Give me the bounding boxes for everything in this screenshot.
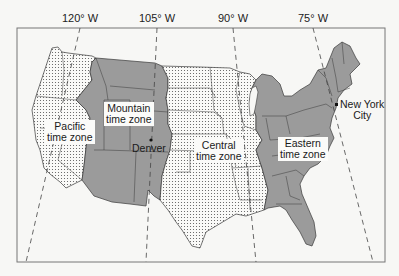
new-york-city-label: New York City: [340, 99, 384, 121]
eastern-label-line2: time zone: [280, 149, 326, 160]
eastern-zone-label: Eastern time zone: [278, 137, 328, 161]
central-zone-label: Central time zone: [194, 139, 244, 163]
pacific-label-line2: time zone: [47, 132, 93, 143]
meridian-label-75w: 75° W: [298, 12, 328, 24]
pacific-zone-label: Pacific time zone: [45, 120, 95, 144]
time-zone-map: 120° W 105° W 90° W 75° W Pacific time z…: [0, 0, 399, 276]
new-york-marker-icon: [335, 103, 338, 106]
mountain-zone-label: Mountain time zone: [104, 102, 154, 126]
nyc-label-line2: City: [340, 110, 384, 121]
central-label-line2: time zone: [196, 151, 242, 162]
denver-label: Denver: [132, 143, 166, 154]
meridian-label-90w: 90° W: [218, 12, 248, 24]
meridian-label-120w: 120° W: [62, 12, 98, 24]
mountain-label-line2: time zone: [106, 114, 152, 125]
meridian-label-105w: 105° W: [139, 12, 175, 24]
